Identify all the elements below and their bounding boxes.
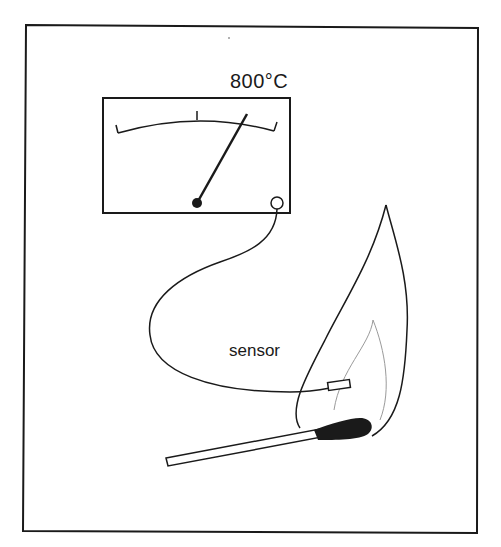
sensor-wire (150, 209, 330, 392)
scale-tick-left (116, 125, 118, 133)
outer-frame (23, 25, 478, 533)
match-head (314, 418, 372, 440)
meter-terminal (271, 197, 283, 209)
sensor-probe (328, 380, 351, 391)
scale-tick-right (274, 122, 277, 131)
match-stick (166, 428, 327, 466)
meter (103, 98, 290, 213)
speck (228, 37, 230, 39)
flame-outline (296, 205, 407, 436)
inner-flame (334, 320, 386, 420)
meter-reading: 800°C (230, 70, 288, 93)
meter-needle (197, 114, 247, 203)
match (166, 418, 372, 466)
sensor-label: sensor (229, 341, 280, 361)
needle-pivot (192, 198, 202, 208)
meter-scale-arc (118, 121, 274, 133)
